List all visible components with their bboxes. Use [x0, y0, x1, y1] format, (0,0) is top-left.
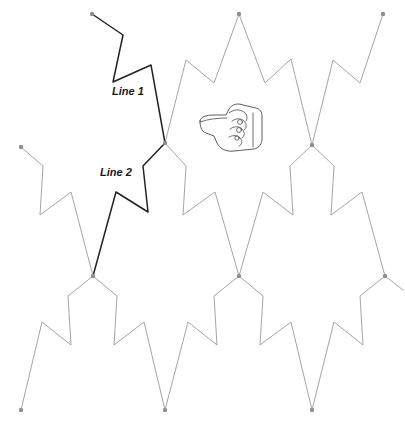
polyline-tile-lower-center-right	[239, 276, 312, 410]
node-bottom-center[interactable]	[163, 408, 167, 412]
bold-edge-group	[92, 14, 165, 276]
polyline-line-2[interactable]	[93, 143, 165, 276]
node-bottom-left[interactable]	[19, 408, 23, 412]
fractal-tiling-figure: Line 1 Line 2	[0, 0, 405, 423]
faint-edge-group	[21, 14, 403, 410]
polyline-line-1[interactable]	[92, 14, 165, 143]
node-junction-lower-left[interactable]	[91, 274, 95, 278]
node-top-left[interactable]	[90, 12, 94, 16]
node-top-right[interactable]	[381, 12, 385, 16]
polyline-tile-left-arm	[21, 147, 93, 276]
node-junction-right[interactable]	[310, 143, 314, 147]
polyline-tile-upper-right-crown	[312, 14, 383, 145]
node-left-arm-end[interactable]	[19, 145, 23, 149]
polyline-tile-lower-right-edge	[385, 276, 403, 290]
polyline-tile-lower-left-right	[93, 276, 165, 410]
polyline-tile-right-upper-body	[239, 145, 312, 276]
polyline-tile-upper-center	[165, 143, 239, 276]
node-junction-lower-center[interactable]	[237, 274, 241, 278]
diagram-canvas: Line 1 Line 2	[0, 0, 405, 423]
line-1-label: Line 1	[112, 85, 144, 97]
node-bottom-right[interactable]	[310, 408, 314, 412]
line-2-label: Line 2	[100, 166, 132, 178]
polyline-tile-right-body	[312, 145, 385, 276]
polyline-tile-lower-left-crown	[21, 276, 93, 410]
polyline-tile-lower-right-left	[312, 276, 385, 410]
node-junction-lower-right[interactable]	[383, 274, 387, 278]
pointing-hand-cursor[interactable]	[200, 104, 262, 151]
node-junction-center[interactable]	[163, 141, 167, 145]
polyline-tile-lower-center-left	[165, 276, 239, 410]
node-top-center[interactable]	[237, 12, 241, 16]
node-dot-group	[19, 12, 387, 412]
